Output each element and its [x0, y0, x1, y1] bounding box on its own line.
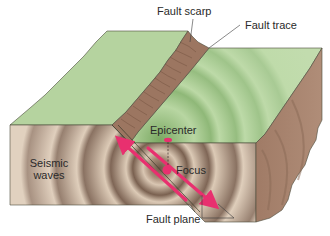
fault-diagram: Fault scarp Fault trace Epicenter Focus … [0, 0, 330, 236]
label-seismic-waves: Seismic waves [29, 157, 69, 181]
fault-block-illustration [0, 0, 330, 236]
label-epicenter: Epicenter [150, 124, 196, 136]
label-focus: Focus [176, 164, 206, 176]
label-seismic-waves-line1: Seismic [29, 157, 69, 169]
label-fault-scarp: Fault scarp [157, 5, 211, 17]
focus-marker [163, 166, 172, 175]
epicenter-marker [164, 138, 172, 142]
label-fault-plane: Fault plane [146, 213, 200, 225]
label-seismic-waves-line2: waves [29, 169, 69, 181]
label-fault-trace: Fault trace [245, 19, 297, 31]
